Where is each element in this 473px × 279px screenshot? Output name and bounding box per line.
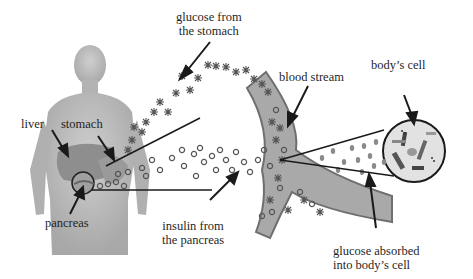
label-line: glucose absorbed: [333, 244, 419, 258]
label-blood-stream: blood stream: [279, 70, 344, 84]
insulin-glucose-diagram: glucose from the stomach blood stream bo…: [0, 0, 473, 279]
diagram-artwork: [0, 0, 473, 279]
label-line: into body’s cell: [333, 258, 419, 272]
label-insulin-from-pancreas: insulin from the pancreas: [162, 219, 224, 247]
label-glucose-from-stomach: glucose from the stomach: [176, 10, 242, 38]
label-line: the stomach: [176, 24, 242, 38]
label-liver: liver: [21, 117, 44, 131]
label-line: glucose from: [176, 10, 242, 24]
label-bodys-cell: body’s cell: [371, 58, 426, 72]
label-glucose-absorbed: glucose absorbed into body’s cell: [333, 244, 419, 272]
label-stomach: stomach: [61, 117, 103, 131]
label-line: the pancreas: [162, 233, 224, 247]
label-pancreas: pancreas: [45, 216, 89, 230]
body-cell-illustration: [383, 120, 445, 182]
label-line: insulin from: [162, 219, 224, 233]
